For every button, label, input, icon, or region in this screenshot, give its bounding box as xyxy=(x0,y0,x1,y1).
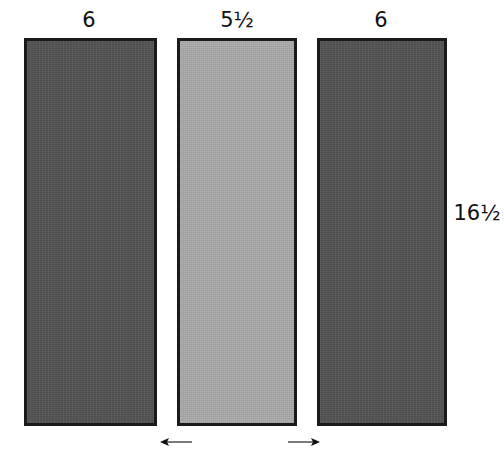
middle-panel-width-label: 5½ xyxy=(212,10,262,31)
right-panel xyxy=(317,38,447,426)
left-arrow-icon xyxy=(158,434,194,450)
height-label: 16½ xyxy=(452,203,502,224)
left-panel-width-label: 6 xyxy=(64,10,114,31)
middle-panel xyxy=(177,38,297,426)
right-arrow-icon xyxy=(286,434,322,450)
left-panel xyxy=(24,38,157,426)
right-panel-width-label: 6 xyxy=(356,10,406,31)
